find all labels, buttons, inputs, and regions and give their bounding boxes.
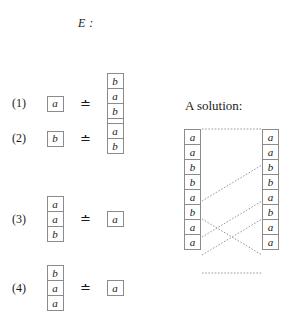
stack-cell: b [47,265,64,281]
stack-cell: b [47,131,64,147]
solution-cell: b [262,159,279,175]
solution-left-word: aabbabaa [184,129,201,250]
solution-cell: b [184,174,201,190]
relation-symbol: ≐ [72,211,98,227]
equation-lhs: b a a [38,265,72,311]
stack-cell: a [47,196,64,212]
solution-cell: a [184,144,201,160]
stack-cell: b [107,103,124,119]
equation-2: (2) b ≐ a b [12,123,132,154]
stack-cell: a [47,211,64,227]
solution-cell: b [262,204,279,220]
equation-number: (1) [12,96,38,111]
system-title: E : [78,16,94,31]
solution-cell: a [184,219,201,235]
stack-cell: a [107,211,124,227]
relation-symbol: ≐ [72,96,98,112]
solution-cell: a [184,234,201,250]
stack-cell: a [47,280,64,296]
equation-lhs: a [38,96,72,112]
solution-cell: a [262,189,279,205]
equation-rhs: a [98,280,132,296]
solution-cell: a [262,144,279,160]
stack-cell: a [107,88,124,104]
equation-lhs: a a b [38,196,72,242]
solution-cell: a [184,189,201,205]
stack-cell: b [107,73,124,89]
solution-heading: A solution: [185,98,242,114]
solution-cell: a [262,219,279,235]
equation-rhs: a [98,211,132,227]
equation-number: (2) [12,131,38,146]
symbol-stack: a a b [47,196,64,242]
equation-3: (3) a a b ≐ a [12,196,132,242]
relation-symbol: ≐ [72,131,98,147]
symbol-stack: a [107,280,124,296]
solution-cell: a [184,129,201,145]
symbol-stack: b a a [47,265,64,311]
equation-number: (3) [12,212,38,227]
symbol-stack: a b [107,123,124,154]
equation-lhs: b [38,131,72,147]
solution-cell: b [184,159,201,175]
solution-link-line [202,165,262,201]
solution-cell: b [184,204,201,220]
stack-cell: b [107,138,124,154]
symbol-stack: b [47,131,64,147]
solution-link-line [202,201,262,237]
symbol-stack: a [47,96,64,112]
solution-cell: b [262,174,279,190]
stack-cell: b [47,226,64,242]
equation-number: (4) [12,281,38,296]
equation-rhs: a b [98,123,132,154]
stack-cell: a [107,280,124,296]
stack-cell: a [47,96,64,112]
symbol-stack: a [107,211,124,227]
equation-4: (4) b a a ≐ a [12,265,132,311]
stack-cell: a [47,295,64,311]
solution-diagram: aabbabaa aabbabaa [184,129,290,274]
solution-right-word: aabbabaa [262,129,279,250]
stack-cell: a [107,123,124,139]
solution-cell: a [262,129,279,145]
solution-cell: a [262,234,279,250]
relation-symbol: ≐ [72,280,98,296]
